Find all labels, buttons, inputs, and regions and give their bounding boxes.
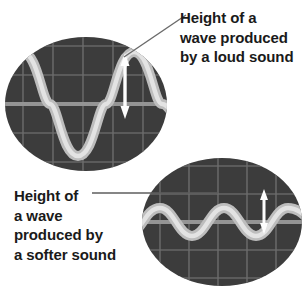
caption-soft-line-2: a wave <box>14 206 116 226</box>
scope-screen-soft <box>142 158 307 290</box>
loud-sound-caption: Height of a wave produced by a loud soun… <box>180 8 294 67</box>
caption-soft-line-1: Height of <box>14 186 116 206</box>
scope-screen-loud <box>0 30 172 178</box>
caption-soft-line-3: produced by <box>14 225 116 245</box>
figure-canvas: Height of a wave produced by a loud soun… <box>0 0 307 295</box>
oscilloscope-soft <box>142 158 307 290</box>
caption-loud-line-1: Height of a <box>180 8 294 28</box>
caption-loud-line-2: wave produced <box>180 28 294 48</box>
soft-sound-caption: Height of a wave produced by a softer so… <box>14 186 116 264</box>
caption-loud-line-3: by a loud sound <box>180 47 294 67</box>
oscilloscope-loud <box>0 30 172 178</box>
caption-soft-line-4: a softer sound <box>14 245 116 265</box>
